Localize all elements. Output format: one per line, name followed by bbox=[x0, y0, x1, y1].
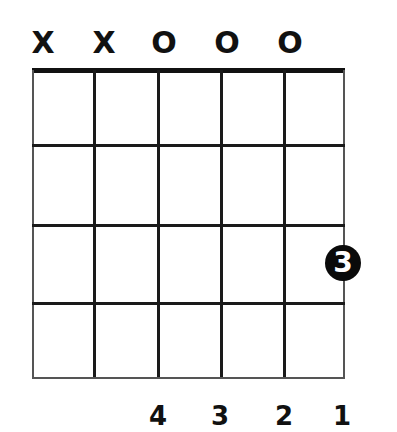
finger-number: 1 bbox=[330, 402, 354, 430]
string-marker-open: O bbox=[275, 28, 305, 58]
string-marker-open: O bbox=[212, 28, 242, 58]
finger-number: 4 bbox=[146, 402, 170, 430]
string-marker-open: O bbox=[149, 28, 179, 58]
finger-number: 3 bbox=[208, 402, 232, 430]
fret-line bbox=[32, 377, 345, 379]
string-marker-muted: X bbox=[28, 28, 58, 58]
nut bbox=[32, 68, 345, 73]
finger-dot: 3 bbox=[325, 245, 361, 281]
finger-number: 2 bbox=[272, 402, 296, 430]
string-marker-muted: X bbox=[89, 28, 119, 58]
fret-line bbox=[32, 224, 345, 227]
fret-line bbox=[32, 302, 345, 305]
fret-line bbox=[32, 144, 345, 147]
